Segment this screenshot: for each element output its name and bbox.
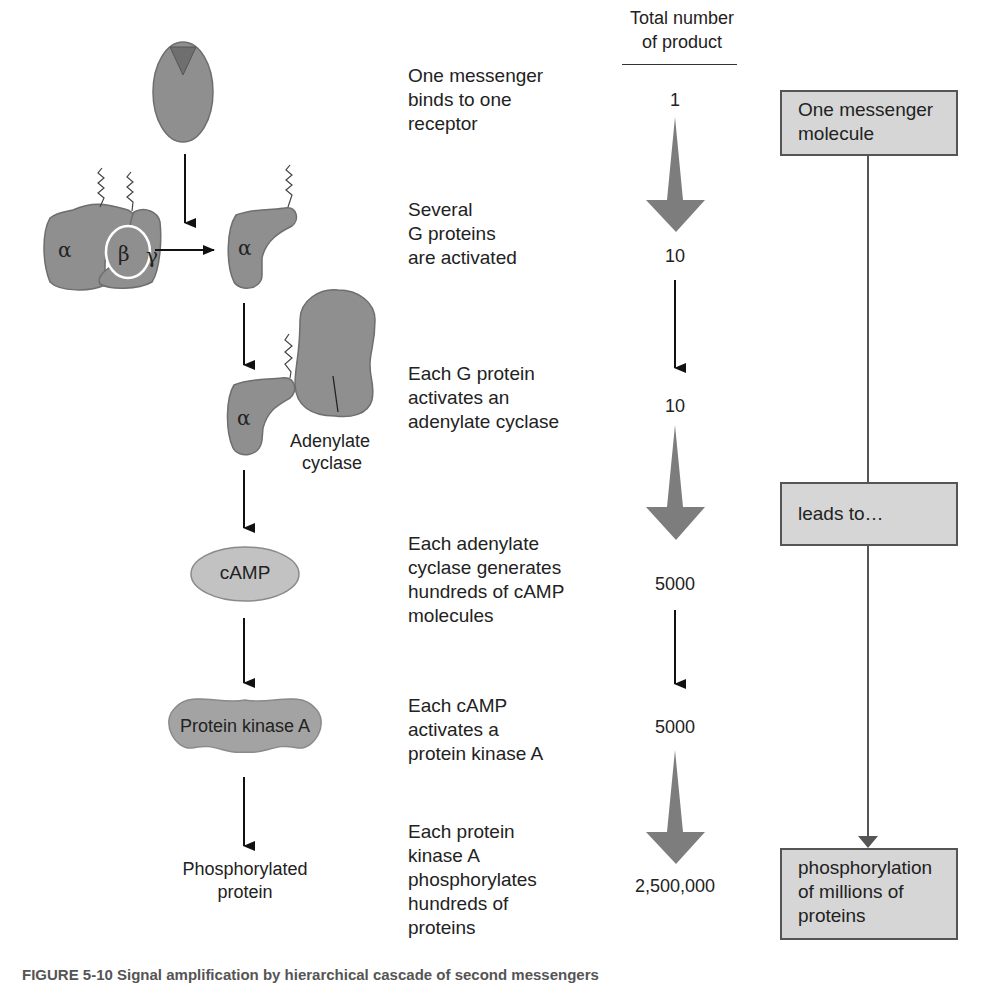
bound-alpha-label: α xyxy=(237,406,251,430)
big-amplification-arrow-icon xyxy=(646,117,705,232)
product-count: 2,500,000 xyxy=(600,876,750,897)
pka-label: Protein kinase A xyxy=(168,716,322,737)
big-amplification-arrow-icon xyxy=(646,750,705,864)
product-count: 1 xyxy=(600,90,750,111)
phosphorylated-protein-label: Phosphorylated protein xyxy=(170,858,320,904)
g-protein-trimer-icon xyxy=(44,168,161,290)
summary-box-messenger: One messengermolecule xyxy=(780,90,958,156)
summary-box-leads-to: leads to… xyxy=(780,482,958,546)
product-count: 10 xyxy=(600,396,750,417)
header-divider xyxy=(622,64,737,65)
product-count: 5000 xyxy=(600,717,750,738)
step-description: Each G proteinactivates anadenylate cycl… xyxy=(408,362,559,434)
activated-alpha-label: α xyxy=(238,236,252,260)
summary-box-phosphorylation: phosphorylationof millions ofproteins xyxy=(780,848,958,940)
product-count: 10 xyxy=(600,246,750,267)
step-description: SeveralG proteinsare activated xyxy=(408,198,517,270)
step-description: Each adenylatecyclase generateshundreds … xyxy=(408,532,564,628)
alpha-label: α xyxy=(58,238,72,262)
step-description: Each cAMPactivates aprotein kinase A xyxy=(408,694,543,766)
figure-caption: FIGURE 5-10 Signal amplification by hier… xyxy=(22,966,599,983)
gamma-label: γ xyxy=(146,244,158,268)
step-description: One messengerbinds to onereceptor xyxy=(408,64,543,136)
adenylate-cyclase-label: Adenylate cyclase xyxy=(290,430,400,474)
beta-label: β xyxy=(118,242,130,266)
activated-alpha-subunit-icon xyxy=(228,165,296,288)
step-description: Each proteinkinase Aphosphorylateshundre… xyxy=(408,820,537,940)
alpha-bound-to-cyclase-icon xyxy=(227,334,294,455)
adenylate-cyclase-icon xyxy=(295,290,375,417)
camp-label: cAMP xyxy=(191,562,299,584)
big-amplification-arrow-icon xyxy=(646,425,705,540)
column-header: Total number of product xyxy=(622,6,742,54)
arrow-down-icon xyxy=(858,836,878,848)
product-count: 5000 xyxy=(600,574,750,595)
